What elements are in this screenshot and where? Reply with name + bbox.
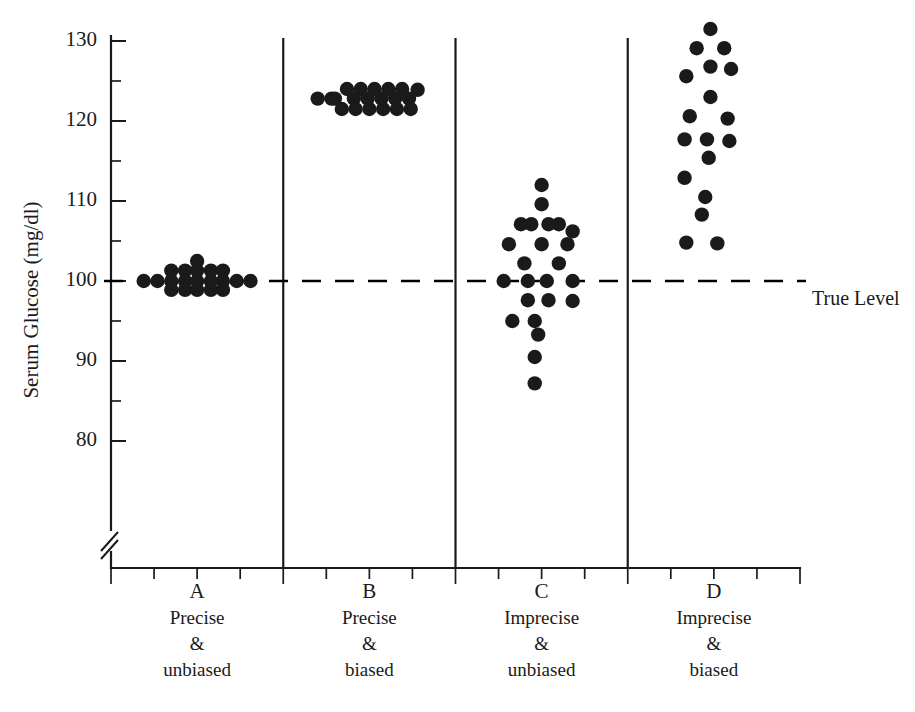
data-point [362, 102, 376, 116]
data-point [390, 102, 404, 116]
group-letter-C: C [535, 579, 549, 603]
data-point [679, 69, 693, 83]
series-C [497, 178, 580, 391]
series-A [137, 254, 258, 297]
data-point [528, 376, 542, 390]
data-point [404, 102, 418, 116]
data-point [328, 91, 342, 105]
plot-canvas: 1301201101009080 APrecise&unbiasedBPreci… [0, 0, 915, 712]
data-point [531, 327, 545, 341]
group-caption-line-A-3: unbiased [163, 659, 231, 680]
data-point [534, 197, 548, 211]
group-caption-line-D-3: biased [690, 659, 739, 680]
data-point [720, 111, 734, 125]
data-point [689, 41, 703, 55]
data-point [521, 293, 535, 307]
data-point [703, 59, 717, 73]
group-caption-line-C-2: & [534, 633, 549, 654]
data-point [534, 178, 548, 192]
data-point [560, 237, 574, 251]
data-point [695, 207, 709, 221]
axis-break-icon [101, 532, 118, 559]
y-tick-label-100: 100 [66, 267, 98, 291]
data-point [524, 217, 538, 231]
group-letter-A: A [190, 579, 206, 603]
data-point [541, 293, 555, 307]
x-axis-ticks [111, 568, 800, 584]
data-point [502, 237, 516, 251]
y-tick-label-130: 130 [66, 27, 98, 51]
data-point [521, 274, 535, 288]
data-point [150, 274, 164, 288]
data-point [702, 151, 716, 165]
data-point [230, 274, 244, 288]
group-caption-line-D-2: & [706, 633, 721, 654]
data-point [164, 283, 178, 297]
data-point [710, 236, 724, 250]
data-point [552, 217, 566, 231]
data-point [722, 134, 736, 148]
data-point [410, 83, 424, 97]
group-caption-line-B-3: biased [345, 659, 394, 680]
data-point [216, 283, 230, 297]
data-point [565, 224, 579, 238]
data-point [724, 62, 738, 76]
group-caption-line-D-1: Imprecise [676, 607, 751, 628]
group-letter-D: D [706, 579, 721, 603]
y-axis [101, 36, 118, 568]
y-axis-tick-labels: 1301201101009080 [66, 27, 98, 451]
data-point [497, 274, 511, 288]
data-point [311, 91, 325, 105]
group-captions: APrecise&unbiasedBPrecise&biasedCImpreci… [163, 579, 751, 680]
data-point [700, 132, 714, 146]
group-letter-B: B [362, 579, 376, 603]
data-point [552, 256, 566, 270]
data-point [677, 132, 691, 146]
data-point [677, 171, 691, 185]
data-point [540, 274, 554, 288]
data-point [679, 235, 693, 249]
true-level-label: True Level [812, 287, 900, 309]
data-point [534, 237, 548, 251]
y-axis-title: Serum Glucose (mg/dl) [19, 201, 43, 398]
y-tick-label-120: 120 [66, 107, 98, 131]
data-point [528, 350, 542, 364]
y-tick-label-80: 80 [76, 427, 97, 451]
group-caption-line-A-2: & [190, 633, 205, 654]
data-point [243, 274, 257, 288]
data-point [528, 314, 542, 328]
data-point [505, 314, 519, 328]
data-point [376, 102, 390, 116]
group-caption-line-B-1: Precise [342, 607, 397, 628]
data-point [137, 274, 151, 288]
y-tick-label-110: 110 [66, 187, 97, 211]
data-point [717, 41, 731, 55]
dot-plot-figure: 1301201101009080 APrecise&unbiasedBPreci… [0, 0, 915, 712]
data-point [683, 109, 697, 123]
group-caption-line-B-2: & [362, 633, 377, 654]
series-D [677, 22, 738, 251]
data-point [703, 22, 717, 36]
group-caption-line-C-1: Imprecise [504, 607, 579, 628]
data-point [565, 294, 579, 308]
data-point [703, 90, 717, 104]
group-caption-line-A-1: Precise [170, 607, 225, 628]
data-point [698, 190, 712, 204]
data-point [517, 256, 531, 270]
data-point [348, 102, 362, 116]
data-point-groups [137, 22, 739, 391]
group-caption-line-C-3: unbiased [508, 659, 576, 680]
y-axis-minor-ticks [111, 81, 121, 401]
y-tick-label-90: 90 [76, 347, 97, 371]
data-point [565, 274, 579, 288]
data-point [190, 283, 204, 297]
series-B [311, 82, 425, 116]
